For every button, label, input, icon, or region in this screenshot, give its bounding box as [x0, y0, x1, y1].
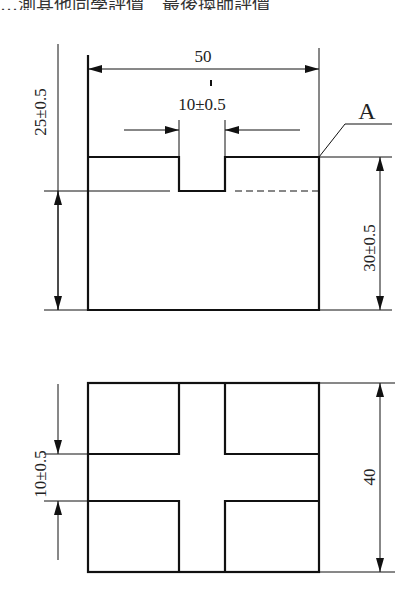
- dim-slot-width: 10±0.5: [178, 95, 226, 114]
- dim-depth-40: 40: [360, 469, 379, 486]
- technical-drawing: 50 10±0.5 25±0.5 30±0.5 A 10±0.5 40: [0, 0, 418, 604]
- dim-cross-width: 10±0.5: [31, 450, 50, 498]
- top-view-outline: [88, 55, 319, 310]
- dim-right-height: 30±0.5: [360, 224, 379, 272]
- dim-width-50: 50: [195, 47, 212, 66]
- dim-left-height: 25±0.5: [31, 88, 50, 136]
- bottom-view-outline: [88, 383, 319, 572]
- surface-label-a: A: [358, 98, 376, 124]
